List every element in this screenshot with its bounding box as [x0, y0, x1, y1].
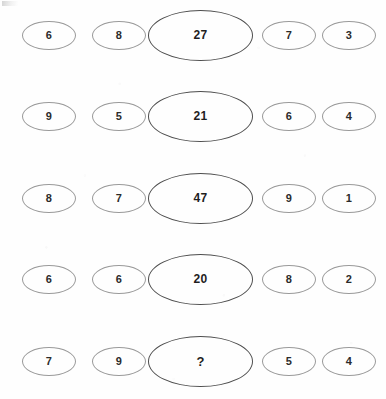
ellipse-value: 21: [194, 110, 208, 122]
ellipse-value: 7: [116, 193, 122, 204]
operand-ellipse: 9: [22, 102, 76, 131]
ellipse-value: 9: [46, 111, 52, 122]
ellipse-value: 1: [346, 193, 352, 204]
operand-ellipse: 4: [322, 347, 376, 376]
operand-ellipse: 4: [322, 102, 376, 131]
operand-ellipse: 9: [92, 347, 146, 376]
operand-ellipse: 8: [262, 265, 316, 294]
result-ellipse: 47: [148, 173, 253, 224]
ellipse-value: 9: [116, 356, 122, 367]
ellipse-value: 4: [346, 111, 352, 122]
operand-ellipse: 6: [22, 265, 76, 294]
ellipse-value: 6: [46, 274, 52, 285]
ellipse-value: 4: [346, 356, 352, 367]
operand-ellipse: 6: [92, 265, 146, 294]
ellipse-value: 2: [346, 274, 352, 285]
ellipse-value: 7: [46, 356, 52, 367]
operand-ellipse: 7: [92, 184, 146, 213]
operand-ellipse: 7: [262, 21, 316, 50]
ellipse-value: 8: [46, 193, 52, 204]
ellipse-value: 27: [194, 29, 208, 41]
result-ellipse: 27: [148, 10, 253, 61]
operand-ellipse: 3: [322, 21, 376, 50]
ellipse-value: 6: [116, 274, 122, 285]
ellipse-value: 6: [46, 30, 52, 41]
operand-ellipse: 6: [22, 21, 76, 50]
ellipse-value: 20: [194, 273, 208, 285]
question-mark: ?: [196, 355, 204, 368]
result-ellipse: 21: [148, 91, 253, 142]
scan-corner-artifact: [2, 1, 18, 6]
operand-ellipse: 5: [92, 102, 146, 131]
puzzle-grid: 68277395216487479166208279?54: [0, 0, 386, 399]
ellipse-value: 5: [116, 111, 122, 122]
ellipse-value: 8: [286, 274, 292, 285]
ellipse-value: 3: [346, 30, 352, 41]
operand-ellipse: 6: [262, 102, 316, 131]
ellipse-value: 47: [194, 192, 208, 204]
ellipse-value: 8: [116, 30, 122, 41]
operand-ellipse: 1: [322, 184, 376, 213]
operand-ellipse: 9: [262, 184, 316, 213]
ellipse-value: 5: [286, 356, 292, 367]
operand-ellipse: 5: [262, 347, 316, 376]
operand-ellipse: 7: [22, 347, 76, 376]
answer-ellipse: ?: [148, 336, 253, 387]
result-ellipse: 20: [148, 254, 253, 305]
operand-ellipse: 8: [92, 21, 146, 50]
ellipse-value: 6: [286, 111, 292, 122]
ellipse-value: 9: [286, 193, 292, 204]
operand-ellipse: 8: [22, 184, 76, 213]
operand-ellipse: 2: [322, 265, 376, 294]
ellipse-value: 7: [286, 30, 292, 41]
